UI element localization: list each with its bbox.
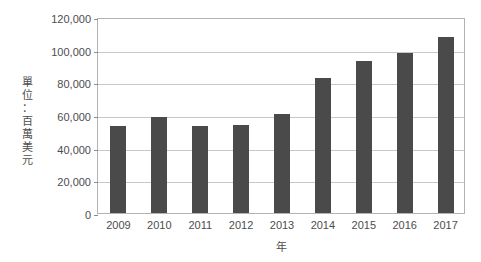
y-tick-label: 80,000: [57, 78, 91, 90]
bar: [274, 114, 290, 213]
y-tick-label: 40,000: [57, 144, 91, 156]
y-tick-label: 120,000: [51, 13, 91, 25]
bar: [151, 117, 167, 213]
x-tick-label: 2011: [188, 219, 212, 231]
x-tick-label: 2013: [270, 219, 294, 231]
y-axis-title-char: 萬: [16, 128, 38, 141]
bar-chart-figure: 單位：百萬美元 020,00040,00060,00080,000100,000…: [0, 0, 481, 262]
y-axis-title: 單位：百萬美元: [16, 76, 38, 167]
bar: [356, 61, 372, 213]
bar: [397, 53, 413, 213]
bars-layer: [98, 19, 464, 213]
y-axis-title-char: 百: [16, 115, 38, 128]
x-axis-title: 年: [97, 238, 465, 254]
y-axis-title-char: 單: [16, 76, 38, 89]
x-tick-label: 2017: [433, 219, 457, 231]
bar: [192, 126, 208, 213]
bar: [110, 126, 126, 213]
bar: [233, 125, 249, 213]
x-tick-label: 2015: [352, 219, 376, 231]
y-tick-label: 60,000: [57, 111, 91, 123]
y-tick-label: 0: [85, 209, 91, 221]
y-axis-title-char: 美: [16, 141, 38, 154]
x-tick-label: 2014: [311, 219, 335, 231]
bar: [438, 37, 454, 213]
x-tick-label: 2010: [147, 219, 171, 231]
x-tick-label: 2009: [106, 219, 130, 231]
y-tick-label: 20,000: [57, 176, 91, 188]
y-tick-mark: [94, 215, 98, 216]
y-axis-title-char: 元: [16, 154, 38, 167]
bar: [315, 78, 331, 213]
x-tick-label: 2016: [392, 219, 416, 231]
y-tick-label: 100,000: [51, 46, 91, 58]
y-axis-title-char: ：: [16, 102, 38, 115]
y-axis-title-char: 位: [16, 89, 38, 102]
plot-area: 020,00040,00060,00080,000100,000120,000 …: [97, 18, 465, 214]
x-tick-label: 2012: [229, 219, 253, 231]
